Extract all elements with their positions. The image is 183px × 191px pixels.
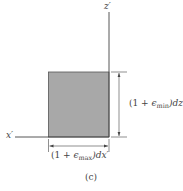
deformed-element (49, 72, 110, 137)
z-axis-label: z′ (104, 1, 111, 11)
vertical-dimension-label: (1 + ϵmin)dz′ (129, 98, 183, 110)
x-axis-label: x′ (6, 130, 13, 140)
vertical-dimension (111, 72, 127, 137)
figure-caption: (c) (85, 172, 97, 182)
horizontal-dimension-label: (1 + ϵmax)dx′ (51, 150, 109, 162)
strain-diagram (0, 0, 183, 191)
